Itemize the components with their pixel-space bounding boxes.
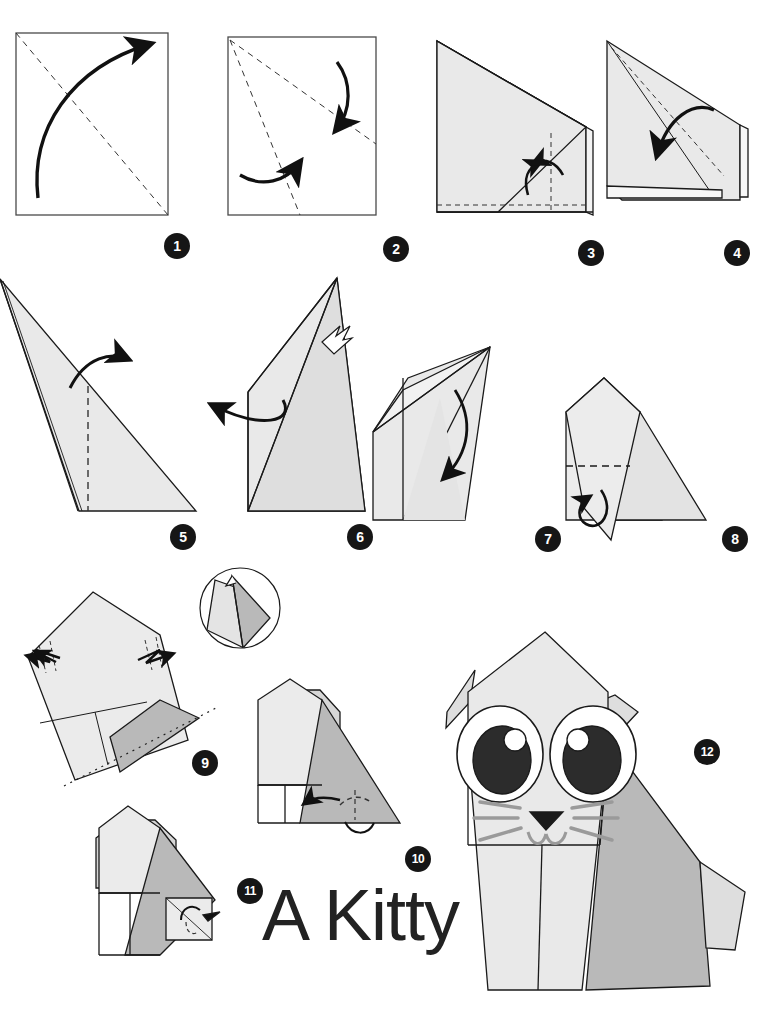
step-4-figure [607,41,748,200]
step-badge-8: 8 [722,526,748,552]
page-title: A Kitty [262,879,459,951]
step-10-figure [258,679,400,833]
step-7-figure [373,347,490,520]
step-11-figure [96,806,220,955]
detail-circle-step-9 [200,568,280,648]
step-badge-9: 9 [192,750,218,776]
step-8-figure [566,378,706,540]
origami-instruction-page: 1 2 3 4 5 6 7 8 9 10 11 12 A Kitty [0,0,772,1017]
step-badge-12: 12 [694,739,720,765]
step-badge-4: 4 [724,240,750,266]
step-badge-1: 1 [164,233,190,259]
step-9-figure [28,592,218,786]
step-badge-6: 6 [347,524,373,550]
step-2-figure [228,37,376,215]
step-1-figure [0,33,168,215]
step-6-figure [212,278,365,511]
step-badge-7: 7 [535,526,561,552]
step-5-figure [0,279,196,511]
diagram-canvas [0,0,772,1017]
step-badge-11: 11 [237,878,263,904]
right-eye [550,706,636,802]
step-badge-2: 2 [383,236,409,262]
step-badge-3: 3 [578,240,604,266]
step-badge-10: 10 [405,846,431,872]
step-12-kitty-figure [446,632,756,990]
step-badge-5: 5 [170,524,196,550]
step-3-figure [437,41,593,215]
left-eye [457,706,543,802]
